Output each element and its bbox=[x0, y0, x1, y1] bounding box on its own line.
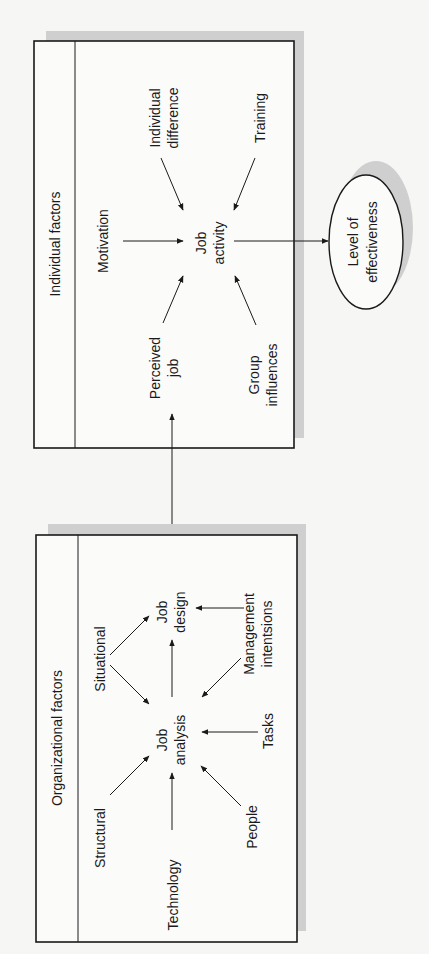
svg-text:difference: difference bbox=[165, 87, 181, 148]
svg-text:Perceived: Perceived bbox=[147, 337, 163, 399]
node-situational: Situational bbox=[92, 626, 108, 691]
svg-text:job: job bbox=[165, 358, 181, 378]
svg-text:influences: influences bbox=[264, 343, 280, 406]
job-effectiveness-diagram: Individual factors Job activity Motivati… bbox=[0, 0, 429, 954]
svg-text:analysis: analysis bbox=[172, 715, 188, 766]
svg-text:Job: Job bbox=[154, 601, 170, 624]
svg-text:Management: Management bbox=[241, 593, 257, 675]
svg-text:Technology: Technology bbox=[165, 860, 181, 931]
svg-text:Structural: Structural bbox=[92, 808, 108, 868]
svg-text:Training: Training bbox=[252, 93, 268, 143]
svg-text:Level of: Level of bbox=[345, 217, 361, 266]
individual-factors-header: Individual factors bbox=[47, 191, 63, 296]
svg-text:effectiveness: effectiveness bbox=[364, 201, 380, 282]
svg-text:Situational: Situational bbox=[92, 626, 108, 691]
svg-text:Job: Job bbox=[154, 729, 170, 752]
node-level-of-effectiveness: Level of effectiveness bbox=[329, 161, 413, 309]
svg-text:People: People bbox=[244, 805, 260, 849]
node-people: People bbox=[244, 805, 260, 849]
node-technology: Technology bbox=[165, 860, 181, 931]
organizational-factors-header: Organizational factors bbox=[49, 670, 65, 806]
svg-text:Individual: Individual bbox=[147, 88, 163, 147]
node-structural: Structural bbox=[92, 808, 108, 868]
individual-factors-panel: Individual factors Job activity Motivati… bbox=[34, 31, 304, 448]
organizational-factors-panel: Organizational factors Job analysis Job … bbox=[36, 524, 306, 942]
svg-text:activity: activity bbox=[211, 222, 227, 265]
svg-text:Motivation: Motivation bbox=[95, 209, 111, 273]
svg-text:design: design bbox=[172, 591, 188, 632]
svg-text:intentsions: intentsions bbox=[259, 601, 275, 668]
svg-text:Job: Job bbox=[193, 232, 209, 255]
node-training: Training bbox=[252, 93, 268, 143]
svg-text:Group: Group bbox=[246, 355, 262, 394]
svg-text:Tasks: Tasks bbox=[260, 713, 276, 749]
node-tasks: Tasks bbox=[260, 713, 276, 749]
node-motivation: Motivation bbox=[95, 209, 111, 273]
